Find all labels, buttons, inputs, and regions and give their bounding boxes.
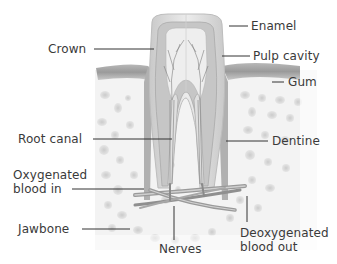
label-enamel: Enamel <box>251 19 297 33</box>
label-pulp-cavity: Pulp cavity <box>253 49 320 63</box>
label-dentine: Dentine <box>272 134 320 148</box>
label-jawbone: Jawbone <box>18 222 69 236</box>
label-gum: Gum <box>288 75 317 89</box>
label-crown: Crown <box>48 42 86 56</box>
label-nerves: Nerves <box>159 242 202 256</box>
label-root-canal: Root canal <box>18 132 82 146</box>
label-oxygenated-blood-in: Oxygenated blood in <box>13 168 87 196</box>
label-deoxygenated-blood-out: Deoxygenated blood out <box>240 226 329 254</box>
